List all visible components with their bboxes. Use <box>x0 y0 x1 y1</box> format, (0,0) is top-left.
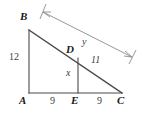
vertex-label-B: B <box>20 11 27 22</box>
vertex-label-C: C <box>117 95 124 106</box>
measure-length-de: x <box>66 68 70 78</box>
dimension-arrow-bd <box>40 4 136 64</box>
dimension-arrow-line <box>43 12 132 57</box>
measure-length-bd: y <box>82 37 86 47</box>
segment-side-BC <box>29 30 122 93</box>
dimension-arrow-head-start-lower <box>43 12 50 17</box>
measure-length-ae: 9 <box>50 96 55 106</box>
measure-length-ab: 12 <box>9 52 19 62</box>
geometry-figure: B A E C D 12 9 9 x 11 y <box>0 0 145 115</box>
measure-length-ec: 9 <box>97 96 102 106</box>
dimension-tick-start <box>40 4 46 19</box>
triangle-outline <box>29 30 122 93</box>
vertex-label-E: E <box>71 95 78 106</box>
vertex-label-D: D <box>66 44 74 55</box>
vertex-label-A: A <box>19 95 26 106</box>
measure-length-dc: 11 <box>91 55 100 65</box>
